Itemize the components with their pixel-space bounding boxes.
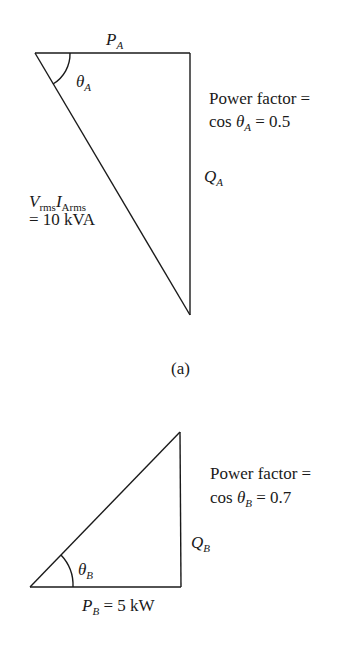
- pf-b-line1: Power factor =: [210, 464, 311, 483]
- label-theta-a: θA: [76, 72, 91, 91]
- label-pa: PA: [106, 30, 123, 49]
- pf-a-value: = 0.5: [251, 112, 290, 131]
- triangle-b-reactive-power-side: [180, 432, 181, 587]
- label-v: V: [29, 192, 39, 211]
- pf-a-theta-sub: A: [244, 121, 251, 133]
- label-qb: QB: [191, 533, 210, 552]
- pf-a-line1: Power factor =: [209, 89, 310, 108]
- label-theta-b-sub: B: [86, 569, 93, 581]
- pf-b-value: = 0.7: [252, 488, 291, 507]
- label-pa-sub: A: [116, 39, 123, 51]
- label-theta-a-sub: A: [84, 81, 91, 93]
- label-qb-main: Q: [191, 533, 203, 552]
- label-pa-main: P: [106, 30, 116, 49]
- pf-b-text: Power factor =: [210, 464, 311, 483]
- triangle-a-apparent-power-hypotenuse: [35, 53, 190, 315]
- caption-a: (a): [171, 359, 190, 378]
- pf-a-line2: cos θA = 0.5: [209, 112, 290, 131]
- triangle-a-angle-arc: [53, 53, 70, 84]
- caption-a-text: (a): [171, 359, 190, 378]
- label-qa-main: Q: [204, 167, 216, 186]
- label-qa: QA: [204, 167, 223, 186]
- triangle-b-apparent-power-hypotenuse: [30, 432, 180, 587]
- pf-a-cos: cos: [209, 112, 236, 131]
- pf-a-text: Power factor =: [209, 89, 310, 108]
- triangle-b: [30, 432, 181, 587]
- label-pb: PB = 5 kW: [82, 596, 155, 615]
- label-apparent-value: = 10 kVA: [29, 210, 95, 229]
- label-qb-sub: B: [203, 542, 210, 554]
- pf-b-line2: cos θB = 0.7: [210, 488, 291, 507]
- label-apparent-power-a-value: = 10 kVA: [29, 210, 95, 229]
- label-theta-b: θB: [78, 560, 93, 579]
- label-apparent-power-a: VrmsIArms: [29, 192, 86, 211]
- label-pb-main: P: [82, 596, 92, 615]
- pf-b-theta-sub: B: [245, 497, 252, 509]
- pf-b-cos: cos: [210, 488, 237, 507]
- triangle-a: [35, 53, 190, 315]
- triangle-b-angle-arc: [61, 555, 73, 587]
- label-pb-value: = 5 kW: [99, 596, 154, 615]
- label-qa-sub: A: [216, 176, 223, 188]
